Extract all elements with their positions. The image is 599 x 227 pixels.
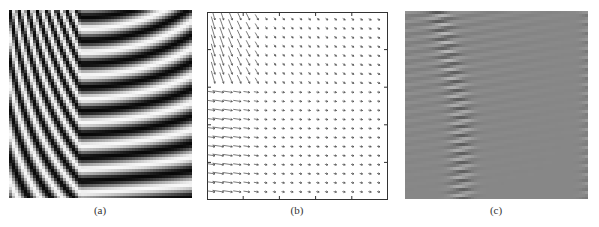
panel-c-residual-image [405,11,588,199]
panel-b-quiver-plot [207,12,388,200]
panel-c-caption: (c) [476,204,516,216]
panel-a-fringe-image [9,10,192,198]
panel-a-caption: (a) [80,204,120,216]
panel-b-caption: (b) [277,204,317,216]
